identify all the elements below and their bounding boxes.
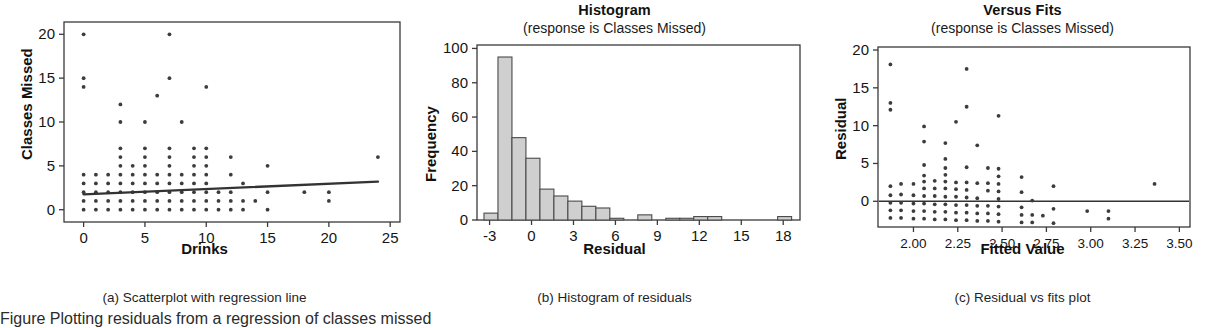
data-point	[204, 164, 208, 168]
data-points	[82, 32, 380, 211]
data-point	[997, 174, 1001, 178]
data-point	[106, 182, 110, 186]
data-point	[119, 103, 123, 107]
data-point	[912, 202, 916, 206]
data-point	[889, 101, 893, 105]
data-point	[922, 209, 926, 213]
data-point	[327, 199, 331, 203]
data-point	[922, 217, 926, 221]
data-point	[168, 182, 172, 186]
data-point	[922, 163, 926, 167]
data-point	[975, 204, 979, 208]
data-point	[192, 182, 196, 186]
y-tick-label: 20	[852, 41, 869, 58]
data-point	[204, 85, 208, 89]
data-point	[943, 173, 947, 177]
data-point	[217, 199, 221, 203]
data-point	[131, 208, 135, 212]
data-point	[204, 146, 208, 150]
data-point	[965, 196, 969, 200]
data-point	[155, 182, 159, 186]
data-point	[82, 199, 86, 203]
data-point	[933, 210, 937, 214]
data-point	[131, 199, 135, 203]
data-point	[899, 182, 903, 186]
data-point	[131, 173, 135, 177]
panel-scatterplot: 051015202505101520 Drinks Classes Missed…	[0, 0, 409, 324]
data-point	[943, 218, 947, 222]
data-point	[1030, 213, 1034, 217]
data-point	[889, 208, 893, 212]
histogram-bar	[778, 217, 792, 220]
histogram-bar	[638, 215, 652, 220]
data-point	[155, 199, 159, 203]
data-point	[180, 208, 184, 212]
data-point	[168, 146, 172, 150]
data-point	[106, 173, 110, 177]
data-point	[954, 180, 958, 184]
data-point	[1020, 221, 1024, 225]
data-point	[986, 181, 990, 185]
data-point	[1020, 205, 1024, 209]
data-point	[119, 173, 123, 177]
histogram-bar	[498, 57, 512, 220]
data-point	[889, 216, 893, 220]
data-point	[943, 141, 947, 145]
data-point	[965, 218, 969, 222]
data-point	[131, 164, 135, 168]
data-point	[180, 173, 184, 177]
data-point	[997, 212, 1001, 216]
data-point	[106, 199, 110, 203]
figure-bottom-caption: Figure Plotting residuals from a regress…	[0, 310, 1228, 328]
data-point	[192, 146, 196, 150]
data-point	[975, 211, 979, 215]
data-point	[82, 208, 86, 212]
data-point	[204, 173, 208, 177]
data-point	[180, 182, 184, 186]
data-point	[168, 155, 172, 159]
data-point	[217, 208, 221, 212]
data-point	[889, 193, 893, 197]
data-point	[266, 164, 270, 168]
data-point	[94, 173, 98, 177]
data-point	[204, 199, 208, 203]
data-point	[943, 210, 947, 214]
data-point	[965, 188, 969, 192]
y-tick-label: 0	[460, 211, 468, 228]
data-point	[155, 173, 159, 177]
data-point	[975, 181, 979, 185]
data-point	[94, 182, 98, 186]
histogram-bar	[568, 201, 582, 220]
data-point	[192, 173, 196, 177]
histogram-bars	[484, 57, 792, 220]
histogram-bar	[484, 213, 498, 220]
panel-histogram: Histogram (response is Classes Missed) -…	[410, 0, 819, 324]
data-point	[933, 202, 937, 206]
histogram-bar	[610, 218, 624, 220]
data-point	[82, 173, 86, 177]
data-point	[192, 155, 196, 159]
data-point	[229, 199, 233, 203]
data-point	[1052, 221, 1056, 225]
data-point	[922, 202, 926, 206]
scatterplot-caption: (a) Scatterplot with regression line	[0, 290, 409, 305]
data-point	[965, 165, 969, 169]
data-point	[180, 120, 184, 124]
data-point	[975, 219, 979, 223]
data-point	[94, 199, 98, 203]
data-point	[180, 199, 184, 203]
y-tick-label: 10	[38, 113, 55, 130]
data-point	[1107, 217, 1111, 221]
data-point	[217, 190, 221, 194]
data-point	[922, 174, 926, 178]
data-point	[168, 173, 172, 177]
data-point	[889, 184, 893, 188]
data-point	[912, 193, 916, 197]
data-point	[954, 203, 958, 207]
versus-fits-canvas: 2.002.252.502.753.003.253.5005101520	[818, 0, 1227, 275]
data-point	[954, 187, 958, 191]
versus-fits-ylabel: Residual	[832, 97, 849, 160]
y-tick-label: 10	[852, 117, 869, 134]
data-point	[119, 120, 123, 124]
data-point	[94, 208, 98, 212]
